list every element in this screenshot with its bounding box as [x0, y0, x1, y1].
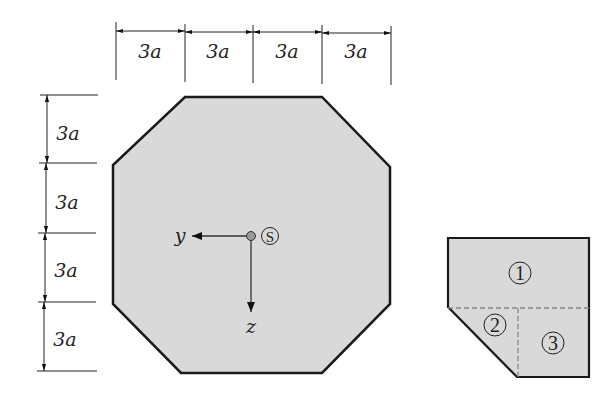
part-1-label: 1	[515, 262, 525, 284]
left-dim-4: 3a	[53, 328, 76, 350]
left-dimension-labels: 3a 3a 3a 3a	[53, 122, 79, 350]
sub-section: 1 2 3	[448, 238, 589, 377]
diagram-canvas: 3a 3a 3a 3a 3a 3a 3a 3a y z S 1	[0, 0, 615, 402]
top-dim-3: 3a	[275, 40, 298, 62]
centroid-label: S	[266, 229, 274, 245]
centroid-point	[247, 232, 256, 241]
part-2-label: 2	[490, 314, 500, 336]
left-dim-3: 3a	[54, 259, 77, 281]
top-dim-2: 3a	[206, 40, 229, 62]
top-dim-4: 3a	[344, 40, 367, 62]
left-dim-1: 3a	[56, 122, 79, 144]
y-axis-label: y	[174, 224, 186, 246]
z-axis-label: z	[245, 315, 257, 337]
top-dim-1: 3a	[138, 40, 161, 62]
left-dim-2: 3a	[55, 191, 78, 213]
part-3-label: 3	[548, 332, 558, 354]
